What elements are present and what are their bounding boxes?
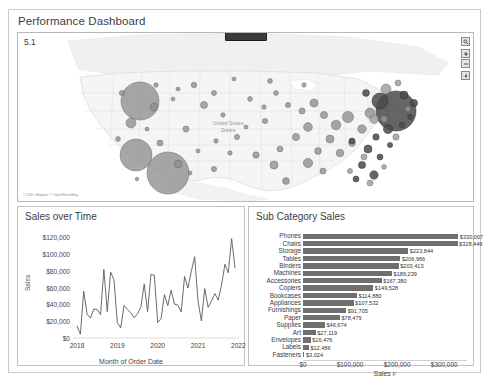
bar-chart-value-label: $114,880 [357,293,381,299]
bar-chart-bar-zone: $206,966 [303,255,473,262]
bar-chart-bar[interactable] [303,322,325,327]
bar-chart-bar[interactable] [303,293,357,298]
bar-chart-bar-zone: $203,413 [303,263,473,270]
line-chart-x-axis-label: Month of Order Date [18,358,244,365]
bar-chart-bar-zone: $189,239 [303,270,473,277]
bar-chart-value-label: $27,119 [316,330,337,336]
map-search-icon[interactable] [461,37,470,46]
bar-chart-bar[interactable] [303,278,382,283]
bar-chart-category-label: Machines [249,270,303,276]
map-pan-icon[interactable] [461,71,470,80]
bar-chart-bar-zone: $27,119 [303,329,473,336]
bar-chart-x-tick: $300,000 [431,361,458,368]
line-chart-x-tick: 2019 [110,342,125,349]
line-chart-x-ticks: 20182019202020212022 [18,342,244,354]
line-chart-y-tick: $20,000 [46,318,70,325]
bar-chart-bar-zone: $330,007 [303,233,473,240]
line-chart-x-tick: 2018 [70,342,85,349]
sales-over-time-panel[interactable]: Sales over Time Sales $0$20,000$40,000$6… [17,206,245,366]
bar-chart-bar-zone: $16,476 [303,337,473,344]
line-chart[interactable]: Sales $0$20,000$40,000$60,000$80,000$100… [18,227,244,367]
symbol-map[interactable]: United States States [18,33,473,201]
bar-chart-bar-zone: $91,705 [303,307,473,314]
bar-chart-category-label: Labels [249,344,303,350]
bar-chart-x-axis-label: Sales F [303,370,467,377]
bar-chart-bar[interactable] [303,285,373,290]
bar-chart-value-label: $330,007 [458,234,483,240]
line-chart-x-tick: 2022 [231,342,246,349]
bar-chart-x-axis-label-text: Sales [374,370,391,377]
bar-chart-x-tick: $100,000 [337,361,364,368]
sales-over-time-title: Sales over Time [25,211,97,222]
bar-chart-bar[interactable] [303,248,408,253]
line-chart-y-tick: $80,000 [46,267,70,274]
line-chart-x-tick: 2021 [191,342,206,349]
bar-chart-bar[interactable] [303,263,399,268]
line-chart-y-tick: $0 [63,335,70,342]
line-chart-y-tick: $60,000 [46,284,70,291]
bar-chart-row[interactable]: Furnishings$91,705 [249,307,473,314]
map-controls [461,37,470,80]
bar-chart-bar[interactable] [303,300,354,305]
bar-chart-bar-zone: $107,532 [303,300,473,307]
bar-chart-value-label: $206,966 [400,256,425,262]
bar-chart-bar-zone: $78,479 [303,314,473,321]
bar-chart-value-label: $91,705 [346,308,368,314]
map-place-label: United States [212,120,244,126]
line-chart-plot[interactable] [73,227,239,339]
bar-chart-row[interactable]: Fasteners$3,024 [249,351,473,358]
bar-chart-value-label: $78,479 [340,315,362,321]
map-sheet-id: 5.1 [24,37,36,47]
bar-chart-bar[interactable] [303,256,400,261]
bar-chart-bar[interactable] [303,315,340,320]
bar-chart-bar-zone: $12,486 [303,344,473,351]
map-zoom-out-icon[interactable] [461,59,470,68]
bar-chart-value-label: $107,532 [354,300,379,306]
bar-chart-category-label: Phones [249,233,303,239]
sort-descending-icon[interactable]: F [393,371,397,377]
bar-chart-bar[interactable] [303,241,458,246]
bar-chart-value-label: $16,476 [311,337,333,343]
line-chart-x-tick: 2020 [150,342,165,349]
bar-chart-bar-zone: $46,674 [303,322,473,329]
bar-chart-bar[interactable] [303,308,346,313]
bar-chart-bar[interactable] [303,330,316,335]
bar-chart-value-label: $167,380 [382,278,407,284]
bar-chart-category-label: Supplies [249,322,303,328]
bar-chart-row[interactable]: Supplies$46,674 [249,322,473,329]
bar-chart-bar-zone: $223,844 [303,248,473,255]
bar-chart[interactable]: Phones$330,007Chairs$328,449Storage$223,… [249,223,473,367]
svg-text:States: States [221,127,236,133]
bar-chart-bar-zone: $328,449 [303,240,473,247]
bar-chart-bar[interactable] [303,337,311,342]
bar-chart-value-label: $3,024 [304,352,323,358]
map-panel[interactable]: 5.1 [17,32,474,202]
bar-chart-bar-zone: $149,528 [303,285,473,292]
map-zoom-in-icon[interactable] [461,49,470,58]
charts-row: Sales over Time Sales $0$20,000$40,000$6… [17,206,474,366]
bar-chart-value-label: $328,449 [458,241,483,247]
bar-chart-bar-zone: $3,024 [303,351,473,358]
bar-chart-value-label: $46,674 [325,322,347,328]
map-attribution: © 2021 Mapbox © OpenStreetMap [23,193,78,197]
bar-chart-value-label: $203,413 [399,263,424,269]
bar-chart-category-label: Copiers [249,285,303,291]
bar-chart-value-label: $12,486 [309,345,331,351]
bar-chart-bar-zone: $167,380 [303,277,473,284]
bar-chart-bar[interactable] [303,271,392,276]
bar-chart-value-label: $189,239 [392,271,417,277]
bar-chart-rows: Phones$330,007Chairs$328,449Storage$223,… [249,233,473,359]
bar-chart-category-label: Fasteners [249,352,303,358]
map-panel-tab-handle[interactable] [225,32,267,41]
dashboard-container: Performance Dashboard 5.1 [8,9,481,373]
bar-chart-bar-zone: $114,880 [303,292,473,299]
bar-chart-category-label: Storage [249,248,303,254]
sub-category-sales-panel[interactable]: Sub Category Sales Phones$330,007Chairs$… [248,206,474,366]
line-chart-y-tick: $40,000 [46,301,70,308]
line-chart-y-tick: $120,000 [42,234,70,241]
bar-chart-x-tick: $200,000 [384,361,411,368]
bar-chart-x-tick: $0 [299,361,306,368]
bar-chart-category-label: Furnishings [249,307,303,313]
bar-chart-bar[interactable] [303,234,458,239]
sub-category-sales-title: Sub Category Sales [256,211,345,222]
